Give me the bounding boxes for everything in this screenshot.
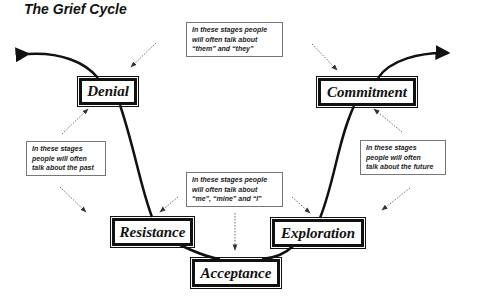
note-line: In these stages — [32, 144, 100, 154]
stage-exploration: Exploration — [272, 219, 364, 247]
note-line: “me”, “mine” and “I” — [192, 194, 277, 204]
note-them-they: In these stages people will often talk a… — [186, 22, 283, 57]
stage-commitment: Commitment — [318, 78, 416, 106]
note-line: In these stages people — [192, 25, 277, 35]
note-line: In these stages — [366, 143, 440, 153]
stage-denial: Denial — [79, 78, 137, 105]
note-line: talk about the past — [32, 163, 100, 173]
note-line: will often talk about — [192, 185, 277, 195]
note-line: In these stages people — [192, 175, 277, 185]
grief-curve-path — [28, 54, 98, 78]
note-line: people will often — [366, 153, 440, 163]
stage-acceptance: Acceptance — [192, 259, 280, 287]
note-me-mine-i: In these stages people will often talk a… — [186, 172, 283, 207]
note-line: people will often — [32, 154, 100, 164]
note-future: In these stages people will often talk a… — [360, 140, 446, 175]
note-past: In these stages people will often talk a… — [26, 141, 106, 176]
note-line: “them” and “they” — [192, 44, 277, 54]
note-line: will often talk about — [192, 35, 277, 45]
note-line: talk about the future — [366, 162, 440, 172]
stage-resistance: Resistance — [112, 218, 193, 246]
